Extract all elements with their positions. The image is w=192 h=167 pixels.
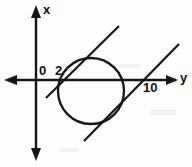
- y-axis-negative-arrow-icon: [4, 75, 17, 85]
- origin-label: 0: [39, 64, 46, 77]
- geometry-figure: 0 2 10 x y: [0, 0, 192, 167]
- x-axis-label: x: [43, 3, 50, 16]
- tangent-circle: [58, 58, 124, 124]
- tick-label-10: 10: [143, 81, 157, 94]
- figure-canvas: [0, 0, 192, 167]
- tick-label-2: 2: [55, 64, 62, 77]
- x-axis-negative-arrow-icon: [31, 148, 41, 161]
- y-axis-arrow-icon: [166, 75, 178, 85]
- x-axis-arrow-icon: [31, 5, 41, 18]
- y-axis-label: y: [180, 71, 187, 84]
